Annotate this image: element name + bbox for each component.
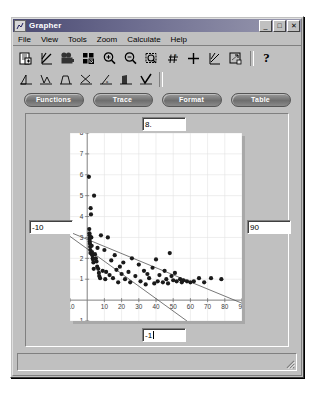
fit-window-icon[interactable] xyxy=(226,49,245,68)
check-curve-icon[interactable] xyxy=(136,71,155,88)
zoom-in-icon[interactable] xyxy=(100,49,119,68)
menu-separator xyxy=(13,45,301,46)
secondary-toolbar: a xyxy=(13,70,301,89)
menu-item-tools[interactable]: Tools xyxy=(63,35,92,44)
menu-item-zoom[interactable]: Zoom xyxy=(92,35,122,44)
svg-text:5: 5 xyxy=(80,192,84,199)
zigzag-plot-icon[interactable] xyxy=(36,71,55,88)
y-min-field[interactable]: -1 xyxy=(142,328,186,342)
action-button-bar: Functions Trace Format Table xyxy=(13,90,301,109)
menu-bar: File View Tools Zoom Calculate Help xyxy=(13,33,301,45)
grapher-window: Grapher _ □ ✕ File View Tools Zoom Calcu… xyxy=(10,16,304,378)
menu-item-help[interactable]: Help xyxy=(166,35,192,44)
crossed-plot-icon[interactable] xyxy=(76,71,95,88)
help-question-icon[interactable]: ? xyxy=(257,49,276,68)
zoom-out-icon[interactable] xyxy=(121,49,140,68)
svg-text:80: 80 xyxy=(221,303,229,310)
toolbar-divider xyxy=(250,51,254,66)
x-max-field[interactable]: 90 xyxy=(247,220,291,234)
y-max-field[interactable]: 8. xyxy=(142,117,186,131)
plot-line-icon[interactable] xyxy=(37,49,56,68)
menu-item-file[interactable]: File xyxy=(13,35,36,44)
svg-text:a: a xyxy=(106,79,109,84)
trapezoid-plot-icon[interactable] xyxy=(56,71,75,88)
svg-text:-1: -1 xyxy=(78,317,84,321)
menu-item-view[interactable]: View xyxy=(36,35,63,44)
close-button[interactable]: ✕ xyxy=(287,20,300,32)
svg-text:90: 90 xyxy=(238,303,242,310)
svg-text:60: 60 xyxy=(187,303,195,310)
menu-item-calculate[interactable]: Calculate xyxy=(122,35,165,44)
title-bar[interactable]: Grapher _ □ ✕ xyxy=(13,19,301,32)
y-min-value: -1 xyxy=(145,331,152,340)
zoom-box-icon[interactable] xyxy=(142,49,161,68)
svg-text:10: 10 xyxy=(101,303,109,310)
filled-curve-icon[interactable] xyxy=(116,71,135,88)
toolbar2-divider xyxy=(159,72,163,87)
svg-text:70: 70 xyxy=(204,303,212,310)
svg-text:6: 6 xyxy=(80,171,84,178)
status-bar xyxy=(17,353,297,371)
minimize-button[interactable]: _ xyxy=(259,20,272,32)
svg-text:1: 1 xyxy=(80,275,84,282)
grid-cells-icon[interactable] xyxy=(79,49,98,68)
x-min-field[interactable]: -10 xyxy=(29,220,73,234)
trace-button[interactable]: Trace xyxy=(93,93,153,107)
text-caret xyxy=(153,331,154,339)
window-title: Grapher xyxy=(29,21,259,30)
slope-label-icon[interactable]: a xyxy=(96,71,115,88)
svg-text:30: 30 xyxy=(135,303,143,310)
svg-text:8: 8 xyxy=(80,133,84,136)
primary-toolbar: n ? xyxy=(13,47,301,69)
new-document-icon[interactable] xyxy=(16,49,35,68)
camera-icon[interactable] xyxy=(58,49,77,68)
svg-text:40: 40 xyxy=(152,303,160,310)
svg-text:-10: -10 xyxy=(70,303,75,310)
maximize-button[interactable]: □ xyxy=(273,20,286,32)
summation-icon[interactable]: n xyxy=(163,49,182,68)
svg-text:7: 7 xyxy=(80,150,84,157)
triangle-plot-icon[interactable] xyxy=(16,71,35,88)
plot-panel: -10102030405060708090-112345678 8. -10 9… xyxy=(25,113,289,347)
regression-axes-icon[interactable] xyxy=(205,49,224,68)
window-controls: _ □ ✕ xyxy=(259,20,300,32)
table-button[interactable]: Table xyxy=(231,93,291,107)
format-button[interactable]: Format xyxy=(162,93,222,107)
functions-button[interactable]: Functions xyxy=(24,93,84,107)
crosshair-icon[interactable] xyxy=(184,49,203,68)
svg-text:20: 20 xyxy=(118,303,126,310)
svg-text:n: n xyxy=(175,52,177,57)
svg-text:4: 4 xyxy=(80,213,84,220)
resize-grip-icon[interactable] xyxy=(284,358,295,369)
scatter-chart[interactable]: -10102030405060708090-112345678 xyxy=(70,133,242,321)
grapher-icon xyxy=(14,20,26,32)
svg-text:2: 2 xyxy=(80,255,84,262)
